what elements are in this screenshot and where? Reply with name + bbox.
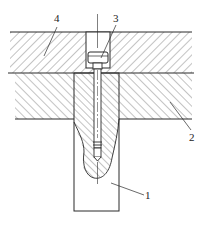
leader-1 (111, 183, 144, 195)
section-drawing: 4 3 2 1 (0, 0, 209, 230)
callout-3: 3 (113, 12, 119, 24)
callout-2: 2 (189, 131, 195, 143)
callout-4: 4 (54, 12, 60, 24)
callout-1: 1 (145, 189, 151, 201)
